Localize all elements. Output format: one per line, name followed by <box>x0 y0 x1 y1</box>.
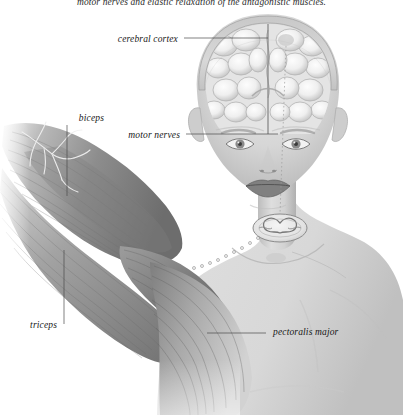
motor-cortex-highlight <box>278 34 294 46</box>
label-pectoralis-major: pectoralis major <box>273 327 338 337</box>
spinal-cord <box>253 214 307 242</box>
label-cerebral-cortex: cerebral cortex <box>118 34 178 44</box>
figure-canvas: motor nerves and elastic relaxation of t… <box>0 0 403 415</box>
label-motor-nerves: motor nerves <box>128 130 180 140</box>
head-group <box>188 14 347 209</box>
label-biceps: biceps <box>79 113 104 123</box>
label-triceps: triceps <box>30 320 57 330</box>
sternal-notch <box>266 253 286 263</box>
arm-group <box>0 110 252 415</box>
anatomy-illustration <box>0 0 403 415</box>
cord-outline <box>253 214 307 242</box>
